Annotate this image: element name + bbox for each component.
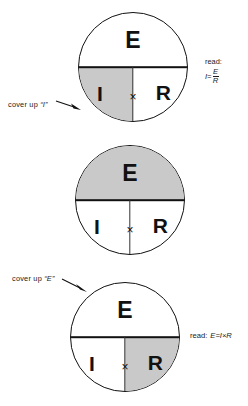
- read-label: read:: [205, 57, 222, 67]
- formula-lhs: I=: [205, 72, 212, 82]
- ohms-law-wheel-2: E I R ×: [75, 145, 185, 255]
- multiplication-sign: ×: [126, 224, 133, 236]
- multiplication-sign: ×: [129, 91, 136, 103]
- ohms-law-wheel-3: E I R ×: [70, 282, 180, 392]
- letter-e: E: [79, 29, 187, 52]
- ohms-law-wheel-1: E I R ×: [78, 12, 188, 122]
- fraction-denominator: R: [213, 77, 218, 85]
- letter-i: I: [94, 216, 100, 237]
- letter-i: I: [89, 353, 95, 374]
- formula-i: I= E R: [205, 68, 219, 86]
- pointer-arrow-i: [56, 96, 82, 110]
- panel-cover-e: E I R × cover up “E” read: E=I×R: [0, 134, 248, 270]
- fraction: E R: [213, 68, 219, 86]
- panel-cover-i: E I R × cover up “I” read: I= E R: [0, 0, 248, 134]
- letter-r: R: [153, 215, 168, 236]
- cover-up-prefix: cover up: [8, 100, 40, 109]
- read-formula-i: read: I= E R: [205, 57, 222, 85]
- letter-r: R: [156, 82, 171, 103]
- letter-i: I: [97, 83, 103, 104]
- fraction-numerator: E: [213, 68, 218, 76]
- panel-cover-r: E I R × read: R= E I cover up R: [0, 270, 248, 406]
- multiplication-sign: ×: [121, 361, 128, 373]
- letter-e: E: [71, 299, 179, 322]
- letter-r: R: [148, 352, 163, 373]
- cover-up-label-i: cover up “I”: [8, 100, 48, 109]
- cover-up-value: “I”: [40, 100, 48, 109]
- letter-e: E: [76, 162, 184, 185]
- shaded-region-i: [79, 67, 133, 121]
